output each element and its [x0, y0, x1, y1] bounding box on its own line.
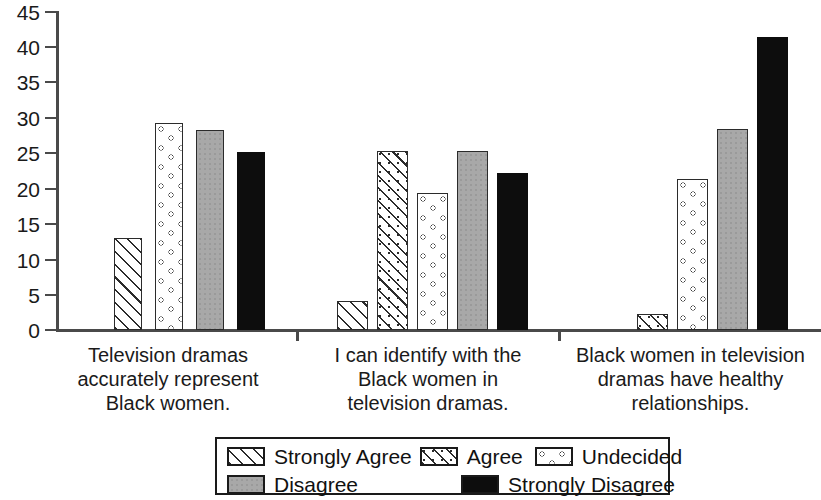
- category-label-3-line-2: dramas have healthy: [563, 367, 818, 391]
- y-tick-label-25: 25: [0, 143, 40, 164]
- category-label-3-line-1: Black women in television: [563, 343, 818, 367]
- category-label-2-line-3: television dramas.: [308, 391, 548, 415]
- legend-row-1: Strongly Agree Agree Undecided: [227, 442, 658, 470]
- legend-label-strongly-disagree: Strongly Disagree: [508, 474, 675, 495]
- legend: Strongly Agree Agree Undecided Disagree: [215, 437, 670, 495]
- category-label-1-line-1: Television dramas: [48, 343, 288, 367]
- bar-g3-agree: [637, 314, 668, 330]
- plot-area: 45 40 35 30 25 20 15 10 5 0: [0, 0, 821, 500]
- legend-swatch-agree-icon: [420, 447, 458, 466]
- category-separator-tick-1: [296, 329, 299, 341]
- category-label-1: Television dramas accurately represent B…: [48, 343, 288, 415]
- category-label-2-line-2: Black women in: [308, 367, 548, 391]
- category-separator-tick-2: [558, 329, 561, 341]
- bar-g2-disagree: [457, 151, 488, 330]
- y-tick-label-10: 10: [0, 250, 40, 271]
- category-label-3: Black women in television dramas have he…: [563, 343, 818, 415]
- bar-g2-undecided: [417, 193, 448, 330]
- y-tick-label-15: 15: [0, 214, 40, 235]
- bar-chart: 45 40 35 30 25 20 15 10 5 0: [0, 0, 821, 500]
- legend-item-undecided[interactable]: Undecided: [535, 446, 682, 467]
- legend-swatch-strongly-disagree-icon: [461, 475, 499, 494]
- bar-g1-strongly-disagree: [237, 152, 265, 330]
- category-label-2: I can identify with the Black women in t…: [308, 343, 548, 415]
- y-tick-mark-0: [45, 329, 56, 331]
- y-tick-mark-30: [45, 117, 56, 119]
- y-tick-label-40: 40: [0, 37, 40, 58]
- y-tick-mark-35: [45, 81, 56, 83]
- category-label-1-line-3: Black women.: [48, 391, 288, 415]
- legend-swatch-disagree-icon: [227, 475, 265, 494]
- y-tick-mark-5: [45, 294, 56, 296]
- legend-row-2: Disagree Strongly Disagree: [227, 470, 658, 498]
- legend-swatch-strongly-agree-icon: [227, 447, 265, 466]
- bar-g1-strongly-agree: [114, 238, 142, 330]
- bar-g1-undecided: [155, 123, 183, 330]
- y-tick-mark-25: [45, 152, 56, 154]
- bar-g2-agree: [377, 151, 408, 330]
- y-tick-label-0: 0: [0, 320, 40, 341]
- legend-item-strongly-agree[interactable]: Strongly Agree: [227, 446, 412, 467]
- bar-g3-strongly-disagree: [757, 37, 788, 330]
- legend-label-disagree: Disagree: [274, 474, 358, 495]
- category-label-1-line-2: accurately represent: [48, 367, 288, 391]
- legend-item-strongly-disagree[interactable]: Strongly Disagree: [461, 474, 675, 495]
- y-tick-label-30: 30: [0, 108, 40, 129]
- y-tick-label-45: 45: [0, 2, 40, 23]
- legend-swatch-undecided-icon: [535, 447, 573, 466]
- y-tick-label-35: 35: [0, 72, 40, 93]
- y-tick-mark-45: [45, 11, 56, 13]
- y-tick-mark-20: [45, 188, 56, 190]
- category-label-2-line-1: I can identify with the: [308, 343, 548, 367]
- category-label-3-line-3: relationships.: [563, 391, 818, 415]
- bar-g3-undecided: [677, 179, 708, 330]
- y-tick-label-20: 20: [0, 179, 40, 200]
- legend-label-agree: Agree: [467, 446, 523, 467]
- legend-item-disagree[interactable]: Disagree: [227, 474, 358, 495]
- bar-g3-disagree: [717, 129, 748, 330]
- y-tick-mark-40: [45, 46, 56, 48]
- y-tick-label-5: 5: [0, 285, 40, 306]
- bar-g2-strongly-agree: [337, 301, 368, 330]
- y-axis-line: [56, 11, 59, 332]
- legend-item-agree[interactable]: Agree: [420, 446, 523, 467]
- bar-g1-disagree: [196, 130, 224, 330]
- legend-label-undecided: Undecided: [582, 446, 682, 467]
- legend-label-strongly-agree: Strongly Agree: [274, 446, 412, 467]
- bar-g2-strongly-disagree: [497, 173, 528, 330]
- y-tick-mark-15: [45, 223, 56, 225]
- y-tick-mark-10: [45, 259, 56, 261]
